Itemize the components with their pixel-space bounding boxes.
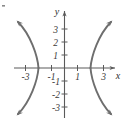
y-tick-label--2: -2 (52, 90, 60, 100)
x-tick-label-3: 3 (100, 72, 106, 82)
y-tick-label--1: -1 (52, 77, 60, 87)
image-speck-artifact (2, 5, 5, 7)
hyperbola-plot: -3 -1 1 3 3 2 1 -1 -2 -3 x y (0, 0, 127, 129)
y-axis-label: y (54, 6, 60, 17)
left-branch-upper (18, 22, 39, 68)
y-tick-label-1: 1 (53, 51, 58, 61)
graph-figure: -3 -1 1 3 3 2 1 -1 -2 -3 x y (0, 0, 127, 129)
y-tick-label--3: -3 (52, 103, 60, 113)
y-tick-label-2: 2 (53, 38, 58, 48)
y-tick-label-3: 3 (52, 25, 58, 35)
x-axis-label: x (115, 70, 121, 81)
x-tick-label-1: 1 (75, 72, 80, 82)
axes-group (14, 11, 115, 118)
x-tick-label--3: -3 (22, 72, 30, 82)
right-branch-upper (91, 22, 112, 68)
y-tick-labels: 3 2 1 -1 -2 -3 (52, 25, 60, 114)
